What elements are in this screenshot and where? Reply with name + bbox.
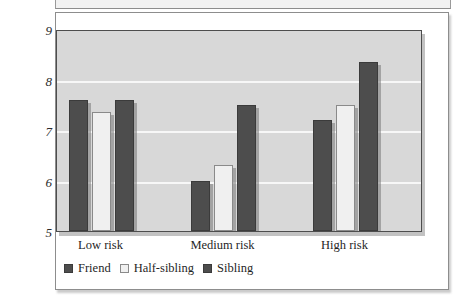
x-tick-label-medium-risk: Medium risk xyxy=(190,238,254,253)
x-tick-label-low-risk: Low risk xyxy=(78,238,123,253)
bar-half-sibling-low-risk[interactable] xyxy=(92,112,111,231)
x-tick-label-high-risk: High risk xyxy=(321,238,368,253)
y-tick-label-7: 7 xyxy=(46,125,53,138)
plot-area xyxy=(56,30,422,232)
bar-chart: 56789 Low riskMedium riskHigh risk Frien… xyxy=(0,0,456,303)
legend-item-friend[interactable]: Friend xyxy=(64,261,111,276)
y-tick-label-8: 8 xyxy=(46,74,53,87)
bar-half-sibling-high-risk[interactable] xyxy=(336,105,355,231)
legend-label: Half-sibling xyxy=(134,261,194,276)
bar-friend-high-risk[interactable] xyxy=(313,120,332,231)
legend-swatch-icon xyxy=(64,264,73,273)
legend-item-half-sibling[interactable]: Half-sibling xyxy=(120,261,194,276)
y-tick-label-6: 6 xyxy=(46,175,53,188)
y-tick-label-9: 9 xyxy=(46,24,53,37)
bar-sibling-high-risk[interactable] xyxy=(359,62,378,231)
legend-item-sibling[interactable]: Sibling xyxy=(203,261,253,276)
legend-swatch-icon xyxy=(120,264,129,273)
legend-label: Sibling xyxy=(217,261,253,276)
legend-label: Friend xyxy=(78,261,111,276)
bar-friend-low-risk[interactable] xyxy=(69,100,88,231)
y-tick-label-5: 5 xyxy=(46,226,53,239)
bar-sibling-low-risk[interactable] xyxy=(115,100,134,231)
bar-half-sibling-medium-risk[interactable] xyxy=(214,165,233,231)
y-axis-tick-labels: 56789 xyxy=(22,30,52,232)
bar-friend-medium-risk[interactable] xyxy=(191,181,210,232)
chart-legend: FriendHalf-siblingSibling xyxy=(64,261,253,276)
x-axis-category-labels: Low riskMedium riskHigh risk xyxy=(56,238,422,256)
bar-group-container xyxy=(57,31,421,231)
bar-sibling-medium-risk[interactable] xyxy=(237,105,256,231)
legend-swatch-icon xyxy=(203,264,212,273)
